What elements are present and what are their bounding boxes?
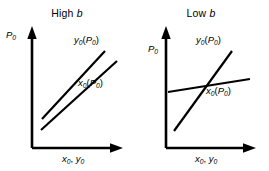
x-axis-label-sub1: 0 [67,158,71,165]
plot-area-high-b [0,0,134,171]
y-axis-label-sub: 0 [154,48,158,55]
x-axis-label-sub2: 0 [214,158,218,165]
curve-label-arg-sub: 0 [92,39,96,46]
curve-label-y0-of-P0-low-b: y0(P0) [196,35,221,45]
curve-label-x0-of-P0-high-b: x0(P0) [78,78,103,88]
curve-label-sub: 0 [211,90,215,97]
x-axis-arrowhead [243,143,256,152]
x-axis-label-low-b: x0, y0 [195,154,217,164]
x-axis-label-var2: y [76,153,81,164]
curve-label-sub: 0 [79,39,83,46]
y-axis-arrowhead [161,26,170,39]
figure-canvas: High b P0 x0, y0 y0(P0) x0(P0) Low b [0,0,269,171]
x-axis-label-sub2: 0 [81,158,85,165]
curve-label-sub: 0 [83,82,87,89]
curve-label-arg-sub: 0 [96,82,100,89]
x-axis-label-sub1: 0 [200,158,204,165]
curve-x0-of-P0 [41,61,117,130]
curve-label-x0-of-P0-low-b: x0(P0) [206,86,231,96]
y-axis-arrowhead [27,26,36,39]
x-axis-label-high-b: x0, y0 [62,154,84,164]
x-axis-label-var2: y [209,153,214,164]
x-axis-arrowhead [110,143,123,152]
curve-label-arg-sub: 0 [214,39,218,46]
curve-label-y0-of-P0-high-b: y0(P0) [74,35,99,45]
plot-area-low-b [134,0,269,171]
panel-high-b: High b P0 x0, y0 y0(P0) x0(P0) [0,0,134,171]
curve-label-arg-sub: 0 [224,90,228,97]
y-axis-label-high-b: P0 [6,30,16,40]
panel-low-b: Low b P0 x0, y0 y0(P0) x0(P0) [134,0,268,171]
y-axis-label-sub: 0 [12,34,16,41]
curve-label-sub: 0 [201,39,205,46]
y-axis-label-low-b: P0 [148,44,158,54]
